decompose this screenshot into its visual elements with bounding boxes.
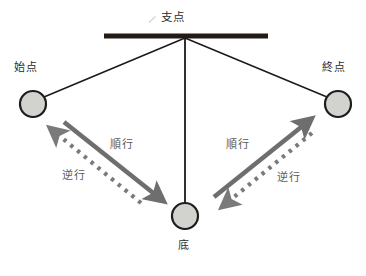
pendulum-diagram: 支点 始点 終点 底 順行 逆行 順行 逆行 bbox=[0, 0, 366, 276]
start-point-label: 始点 bbox=[14, 62, 37, 74]
pendulum-bob-end-icon bbox=[325, 91, 351, 117]
arrow-down-right-icon bbox=[64, 122, 157, 196]
end-point-label: 終点 bbox=[322, 62, 345, 74]
reverse-motion-label-right: 逆行 bbox=[277, 172, 300, 184]
forward-motion-label-right: 順行 bbox=[226, 139, 249, 151]
string-to-end-bob bbox=[185, 38, 327, 97]
arrow-up-right-icon bbox=[214, 124, 305, 197]
string-to-start-bob bbox=[44, 38, 185, 97]
slash-tick-icon bbox=[148, 15, 157, 24]
pendulum-bob-start-icon bbox=[20, 91, 46, 117]
reverse-motion-label-left: 逆行 bbox=[62, 170, 85, 182]
bottom-point-label: 底 bbox=[178, 240, 190, 252]
forward-motion-label-left: 順行 bbox=[110, 139, 133, 151]
diagram-canvas bbox=[0, 0, 366, 276]
fulcrum-label: 支点 bbox=[161, 11, 184, 24]
pendulum-bob-bottom-icon bbox=[172, 203, 198, 229]
